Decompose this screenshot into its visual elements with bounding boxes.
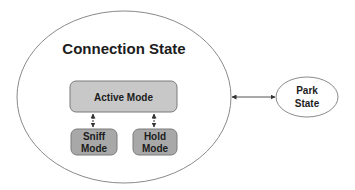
sniff-mode-line2: Mode: [81, 143, 108, 154]
sniff-mode-node: Sniff Mode: [71, 129, 117, 155]
connection-state-title: Connection State: [62, 40, 185, 57]
park-state-line1: Park: [296, 85, 318, 96]
hold-mode-line2: Mode: [142, 143, 169, 154]
hold-mode-node: Hold Mode: [133, 129, 177, 155]
connection-state-diagram: Connection State Active Mode Sniff Mode …: [0, 0, 355, 190]
sniff-mode-line1: Sniff: [83, 131, 106, 142]
hold-mode-line1: Hold: [144, 131, 166, 142]
active-mode-node: Active Mode: [70, 81, 177, 112]
active-mode-label: Active Mode: [94, 92, 153, 103]
park-state-line2: State: [295, 98, 320, 109]
park-state-node: Park State: [276, 77, 338, 117]
